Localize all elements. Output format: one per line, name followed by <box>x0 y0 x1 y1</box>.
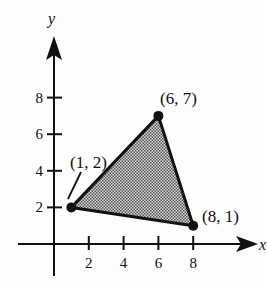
vertex-label-1-2: (1, 2) <box>70 153 107 172</box>
y-tick-label: 2 <box>36 199 44 215</box>
y-tick-label: 8 <box>36 90 44 106</box>
y-ticks: 2468 <box>36 90 63 216</box>
x-axis-label: x <box>258 236 266 253</box>
x-tick-label: 4 <box>120 255 128 271</box>
x-tick-label: 6 <box>155 255 163 271</box>
vertex-label-6-7: (6, 7) <box>160 89 197 108</box>
y-tick-label: 4 <box>36 163 44 179</box>
vertex-label-8-1: (8, 1) <box>202 207 239 226</box>
label-leader-line <box>68 172 81 199</box>
coordinate-plane: x y 2468 2468 (1, 2) (6, 7) (8, 1) <box>0 0 267 286</box>
x-ticks: 2468 <box>85 236 197 271</box>
vertex-point <box>153 111 163 121</box>
y-axis-label: y <box>46 10 56 28</box>
vertex-point <box>66 202 76 212</box>
y-tick-label: 6 <box>36 126 44 142</box>
x-tick-label: 8 <box>189 255 197 271</box>
vertex-point <box>188 221 198 231</box>
x-tick-label: 2 <box>85 255 93 271</box>
